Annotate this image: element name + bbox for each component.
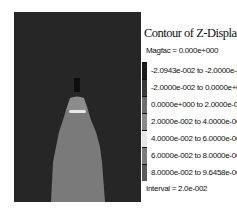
high-displacement-band bbox=[69, 110, 86, 113]
legend-row: 6.0000e-002 to 8.0000e-002 bbox=[142, 147, 237, 164]
interval-label: Interval = 2.0e-002 bbox=[146, 184, 207, 193]
legend-label: 0.0000e+000 to 2.0000e-002 bbox=[151, 100, 237, 109]
legend-row: 4.0000e-002 to 6.0000e-002 bbox=[142, 130, 237, 147]
legend-label: 2.0000e-002 to 4.0000e-002 bbox=[151, 117, 237, 126]
legend-label: 4.0000e-002 to 6.0000e-002 bbox=[151, 134, 237, 143]
chart-title: Contour of Z-Displacement bbox=[144, 26, 237, 41]
cone-body-region bbox=[51, 110, 105, 202]
legend-label: 6.0000e-002 to 8.0000e-002 bbox=[151, 151, 237, 160]
legend-row: -2.0943e-002 to -2.0000e-002 bbox=[142, 62, 237, 79]
legend-label: -2.0000e-002 to 0.0000e+000 bbox=[151, 83, 237, 92]
cone-cap-region bbox=[66, 97, 88, 111]
legend-swatch bbox=[142, 113, 147, 130]
tip-region bbox=[74, 78, 80, 92]
legend-swatch bbox=[142, 62, 147, 79]
magfac-label: Magfac = 0.000e+000 bbox=[146, 46, 218, 55]
legend-row: 8.0000e-002 to 9.6458e-002 bbox=[142, 164, 237, 181]
legend-label: 8.0000e-002 to 9.6458e-002 bbox=[151, 168, 237, 177]
legend-label: -2.0943e-002 to -2.0000e-002 bbox=[151, 66, 237, 75]
contour-plot-area bbox=[14, 12, 141, 202]
legend-swatch bbox=[142, 130, 147, 147]
legend-swatch bbox=[142, 96, 147, 113]
contour-plot-svg bbox=[14, 12, 141, 202]
legend-row: -2.0000e-002 to 0.0000e+000 bbox=[142, 79, 237, 96]
legend-swatch bbox=[142, 79, 147, 96]
legend-swatch bbox=[142, 147, 147, 164]
legend-row: 2.0000e-002 to 4.0000e-002 bbox=[142, 113, 237, 130]
contour-legend: -2.0943e-002 to -2.0000e-002 -2.0000e-00… bbox=[142, 62, 237, 181]
legend-row: 0.0000e+000 to 2.0000e-002 bbox=[142, 96, 237, 113]
legend-swatch bbox=[142, 164, 147, 181]
